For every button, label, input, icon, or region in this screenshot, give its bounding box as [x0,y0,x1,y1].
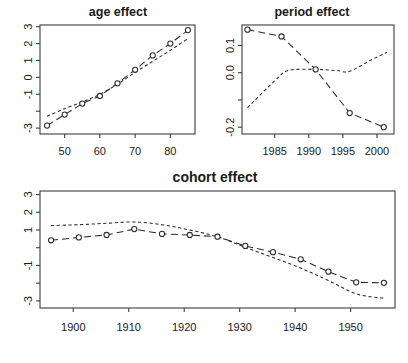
x-tick-label: 70 [129,145,141,157]
x-tick-label: 80 [164,145,176,157]
data-point-marker [104,232,109,237]
data-point-marker [76,235,81,240]
x-tick-label: 1900 [61,321,85,333]
cohort-panel-title: cohort effect [173,169,258,185]
y-tick-label: 3 [22,24,34,30]
data-point-marker [44,123,49,128]
data-point-marker [347,110,352,115]
data-point-marker [132,227,137,232]
data-point-marker [381,125,386,130]
data-point-marker [159,231,164,236]
x-tick-label: 1920 [172,321,196,333]
period-panel-title: period effect [274,5,350,19]
y-tick-label: 1 [22,227,34,233]
data-point-marker [80,101,85,106]
y-tick-label: -1 [22,89,34,99]
x-tick-label: 1995 [331,145,355,157]
y-tick-label: -0.2 [224,118,236,137]
x-tick-label: 1930 [227,321,251,333]
x-tick-label: 2000 [365,145,389,157]
x-tick-label: 1985 [262,145,286,157]
y-tick-label: 1 [22,57,34,63]
data-point-marker [48,238,53,243]
x-tick-label: 1990 [297,145,321,157]
data-point-marker [298,257,303,262]
age-panel-title: age effect [89,5,148,19]
apc-effects-figure: age effect 3210-1-3 50607080 period effe… [0,0,408,363]
data-point-marker [354,280,359,285]
data-point-marker [215,234,220,239]
data-point-marker [150,53,155,58]
x-tick-label: 1950 [338,321,362,333]
y-tick-label: -1 [22,261,34,271]
y-tick-label: -3 [22,296,34,306]
data-point-marker [381,280,386,285]
y-tick-label: 0.1 [224,38,236,53]
x-tick-label: 60 [94,145,106,157]
data-point-marker [62,112,67,117]
data-point-marker [313,67,318,72]
data-point-marker [245,27,250,32]
y-tick-label: 3 [22,191,34,197]
data-point-marker [133,67,138,72]
data-point-marker [326,269,331,274]
x-tick-label: 50 [59,145,71,157]
y-tick-label: 0 [22,74,34,80]
data-point-marker [243,243,248,248]
data-point-marker [185,27,190,32]
y-tick-label: 0.0 [224,65,236,80]
data-point-marker [97,93,102,98]
data-point-marker [168,41,173,46]
data-point-marker [270,250,275,255]
x-tick-label: 1940 [283,321,307,333]
y-tick-label: 2 [22,209,34,215]
x-tick-label: 1910 [117,321,141,333]
data-point-marker [115,81,120,86]
data-point-marker [279,34,284,39]
y-tick-label: 2 [22,41,34,47]
y-tick-label: -3 [22,123,34,133]
data-point-marker [187,232,192,237]
